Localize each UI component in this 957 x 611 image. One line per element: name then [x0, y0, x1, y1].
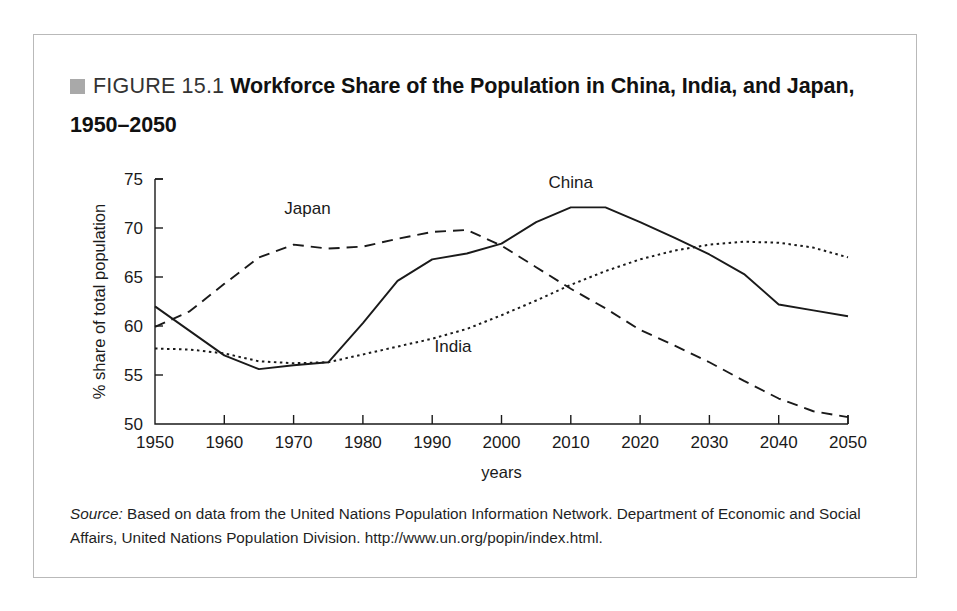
x-tick-label: 2000: [483, 433, 521, 452]
source-text: Based on data from the United Nations Po…: [70, 505, 861, 546]
y-tick-label: 75: [124, 170, 143, 189]
x-tick-label: 1980: [344, 433, 382, 452]
x-tick-label: 1970: [275, 433, 313, 452]
y-tick-label: 60: [124, 317, 143, 336]
y-axis-title: % share of total population: [90, 204, 108, 399]
y-tick-label: 65: [124, 268, 143, 287]
x-tick-label: 2020: [621, 433, 659, 452]
x-tick-label: 1960: [205, 433, 243, 452]
source-note: Source: Based on data from the United Na…: [70, 502, 882, 550]
x-axis-title: years: [481, 463, 521, 481]
y-tick-label: 50: [124, 415, 143, 434]
y-tick-label: 70: [124, 219, 143, 238]
figure-frame: FIGURE 15.1 Workforce Share of the Popul…: [33, 34, 917, 578]
series-line-china: [155, 207, 848, 369]
x-tick-label: 1950: [136, 433, 174, 452]
source-prefix: Source:: [70, 505, 123, 522]
series-label-india: India: [435, 337, 472, 356]
x-tick-label: 2010: [552, 433, 590, 452]
line-chart-svg: 5055606570751950196019701980199020002010…: [34, 35, 918, 579]
y-tick-label: 55: [124, 366, 143, 385]
series-label-japan: Japan: [284, 199, 330, 218]
series-label-china: China: [549, 173, 594, 192]
x-tick-label: 2050: [829, 433, 867, 452]
series-line-india: [155, 242, 848, 364]
x-tick-label: 2030: [690, 433, 728, 452]
series-line-japan: [155, 230, 848, 417]
x-tick-label: 2040: [760, 433, 798, 452]
x-tick-label: 1990: [413, 433, 451, 452]
chart-plot-area: 5055606570751950196019701980199020002010…: [34, 35, 918, 579]
